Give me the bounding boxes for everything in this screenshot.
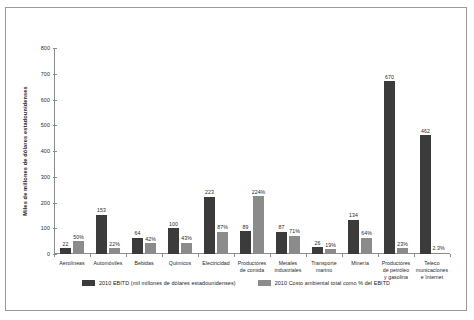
bar-value-label: 22 <box>63 241 69 247</box>
bar-cost-pct <box>145 243 157 254</box>
x-tick <box>378 254 379 257</box>
bar-value-label: 19% <box>325 242 336 248</box>
x-tick <box>90 254 91 257</box>
y-tick-label-100: 100 <box>41 225 50 231</box>
y-tick-label-500: 500 <box>41 122 50 128</box>
chart-legend: 2010 EBITD (mil millones de dólares esta… <box>6 280 466 286</box>
bar-ebitd <box>312 247 324 254</box>
bar-ebitd <box>348 220 360 255</box>
bar-ebitd <box>420 135 432 254</box>
y-tick-label-300: 300 <box>41 174 50 180</box>
y-tick-label-0: 0 <box>47 251 50 257</box>
x-category-label: Telecomunicacionese Internet <box>409 260 455 281</box>
y-tick-label-200: 200 <box>41 200 50 206</box>
bar-value-label: 224% <box>252 189 266 195</box>
y-tick-label-800: 800 <box>41 45 50 51</box>
bar-ebitd <box>96 215 108 254</box>
y-tick-label-400: 400 <box>41 148 50 154</box>
bar-value-label: 71% <box>289 228 300 234</box>
x-tick <box>198 254 199 257</box>
y-axis-title-text: Miles de millones de dólares estadounide… <box>22 86 28 216</box>
bar-value-label: 64% <box>361 230 372 236</box>
x-tick <box>126 254 127 257</box>
bar-value-label: 462 <box>421 128 430 134</box>
y-tick-label-700: 700 <box>41 71 50 77</box>
bar-group: 67023% <box>384 48 409 254</box>
bar-value-label: 134 <box>349 212 358 218</box>
bar-value-label: 23% <box>397 241 408 247</box>
bar-cost-pct <box>361 238 373 254</box>
x-tick <box>54 254 55 257</box>
bar-group: 8771% <box>276 48 301 254</box>
bar-ebitd <box>132 238 144 254</box>
bar-cost-pct <box>109 248 121 254</box>
x-tick <box>450 254 451 257</box>
y-tick-400 <box>53 151 57 152</box>
bar-cost-pct <box>289 236 301 254</box>
bar-ebitd <box>204 197 216 254</box>
bar-cost-pct <box>217 232 229 254</box>
chart-frame: Miles de millones de dólares estadounide… <box>5 7 467 311</box>
bar-value-label: 64 <box>135 230 141 236</box>
y-tick-500 <box>53 125 57 126</box>
x-tick <box>234 254 235 257</box>
bar-ebitd <box>384 81 396 254</box>
bar-cost-pct <box>433 253 445 254</box>
bar-cost-pct <box>397 248 409 254</box>
bar-value-label: 43% <box>181 235 192 241</box>
x-category-line: Teleco <box>409 260 455 267</box>
bar-group: 89224% <box>240 48 265 254</box>
bar-cost-pct <box>325 249 337 254</box>
bar-cost-pct <box>253 196 265 254</box>
legend-label: 2010 EBITD (mil millones de dólares esta… <box>99 280 236 286</box>
legend-entry: 2010 EBITD (mil millones de dólares esta… <box>82 280 236 286</box>
plot-area: 0100200300400500600700800 2250%15322%644… <box>54 48 450 254</box>
bar-value-label: 89 <box>243 224 249 230</box>
bar-group: 2619% <box>312 48 337 254</box>
y-tick-label-600: 600 <box>41 97 50 103</box>
y-tick-800 <box>53 48 57 49</box>
bar-ebitd <box>60 248 72 254</box>
y-tick-700 <box>53 74 57 75</box>
bar-value-label: 2.3% <box>432 245 444 251</box>
bar-value-label: 87 <box>279 224 285 230</box>
y-tick-600 <box>53 100 57 101</box>
bar-ebitd <box>168 228 180 254</box>
bar-value-label: 87% <box>217 224 228 230</box>
x-tick <box>342 254 343 257</box>
bar-value-label: 50% <box>73 234 84 240</box>
bar-value-label: 100 <box>169 221 178 227</box>
bar-group: 2250% <box>60 48 85 254</box>
legend-entry: 2010 Costo ambiental total como % del EB… <box>258 280 390 286</box>
bar-ebitd <box>276 232 288 254</box>
y-tick-200 <box>53 203 57 204</box>
bar-ebitd <box>240 231 252 254</box>
legend-swatch-gray <box>258 280 271 286</box>
bar-group: 4622.3% <box>420 48 445 254</box>
x-category-line: marino <box>301 267 347 274</box>
bar-value-label: 42% <box>145 236 156 242</box>
y-tick-100 <box>53 228 57 229</box>
bar-group: 13464% <box>348 48 373 254</box>
legend-swatch-dark <box>82 280 95 286</box>
bar-group: 22387% <box>204 48 229 254</box>
bar-cost-pct <box>73 241 85 254</box>
x-tick <box>270 254 271 257</box>
x-tick <box>162 254 163 257</box>
x-tick <box>414 254 415 257</box>
x-tick <box>306 254 307 257</box>
y-tick-300 <box>53 177 57 178</box>
bar-value-label: 670 <box>385 74 394 80</box>
legend-label: 2010 Costo ambiental total como % del EB… <box>275 280 390 286</box>
bar-value-label: 26 <box>315 240 321 246</box>
bar-group: 10043% <box>168 48 193 254</box>
bar-cost-pct <box>181 243 193 254</box>
bar-value-label: 153 <box>97 207 106 213</box>
bar-group: 15322% <box>96 48 121 254</box>
y-axis-title: Miles de millones de dólares estadounide… <box>20 48 30 254</box>
bar-value-label: 223 <box>205 189 214 195</box>
bar-group: 6442% <box>132 48 157 254</box>
bar-value-label: 22% <box>109 241 120 247</box>
x-category-line: municaciones <box>409 267 455 274</box>
